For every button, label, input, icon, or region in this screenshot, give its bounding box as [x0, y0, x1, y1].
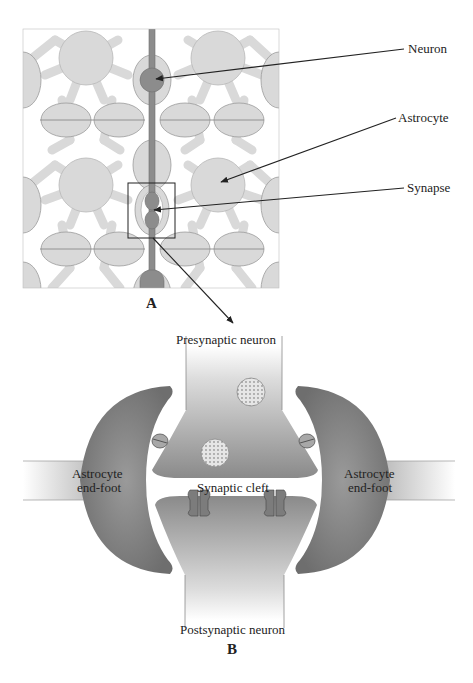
postsynaptic-terminal [155, 496, 317, 620]
label-neuron: Neuron [408, 41, 447, 56]
label-endfoot-right-1: Astrocyte [344, 466, 395, 481]
label-synaptic-cleft: Synaptic cleft [197, 480, 269, 495]
astrocyte-stalk-right [385, 461, 455, 500]
label-postsynaptic-neuron: Postsynaptic neuron [180, 622, 286, 637]
astrocyte-synapse-diagram: Neuron Astrocyte Synapse A [0, 0, 473, 683]
label-synapse: Synapse [407, 180, 451, 195]
panel-a-tissue-grid [5, 29, 297, 320]
label-endfoot-left-2: end-foot [77, 480, 121, 495]
panel-letter-b: B [227, 641, 237, 657]
label-endfoot-right-2: end-foot [348, 480, 392, 495]
transporter-left [152, 434, 168, 448]
panel-letter-a: A [146, 295, 157, 311]
transporter-right [299, 434, 315, 448]
label-presynaptic-neuron: Presynaptic neuron [176, 332, 277, 347]
presynaptic-terminal [152, 346, 318, 478]
label-endfoot-left-1: Astrocyte [72, 466, 123, 481]
synaptic-vesicle [201, 439, 229, 467]
label-astrocyte: Astrocyte [398, 110, 449, 125]
synaptic-vesicle [237, 378, 265, 406]
